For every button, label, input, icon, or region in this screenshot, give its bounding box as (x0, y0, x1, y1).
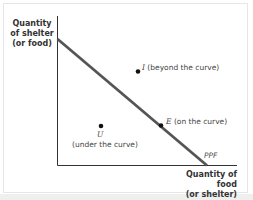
y-axis-label: Quantity of shelter (or food) (10, 19, 54, 49)
ppf-label: PPF (204, 151, 217, 160)
x-axis-label: Quantity of food (or shelter) (170, 170, 237, 200)
y-axis-label-line: Quantity (10, 19, 54, 29)
point-i-label: I (beyond the curve) (142, 63, 219, 72)
point-u-letter-wrap: U (97, 130, 103, 139)
point-e-letter: E (166, 117, 171, 126)
point-e-label: E (on the curve) (166, 117, 227, 126)
point-u-text: (under the curve) (72, 140, 138, 149)
point-e (159, 123, 164, 128)
point-i-letter: I (142, 63, 145, 72)
y-axis-label-line: of shelter (10, 29, 54, 39)
y-axis-label-line: (or food) (10, 39, 54, 49)
point-i-text: (beyond the curve) (147, 63, 219, 72)
x-axis-label-line: Quantity of food (170, 170, 237, 190)
x-axis-label-line: (or shelter) (170, 190, 237, 200)
point-u-label: (under the curve) (72, 140, 138, 149)
point-u-letter: U (97, 130, 103, 139)
point-u (99, 124, 104, 129)
point-e-text: (on the curve) (174, 117, 227, 126)
point-i (136, 69, 141, 74)
